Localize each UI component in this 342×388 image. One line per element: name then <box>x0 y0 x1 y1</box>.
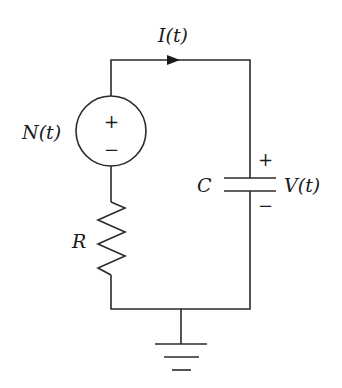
current-label: I(t) <box>157 24 188 46</box>
capacitor-label: C <box>197 174 212 196</box>
circuit-diagram: I(t) + − N(t) R + − C V(t) <box>0 0 342 388</box>
capacitor-minus-sign: − <box>258 195 273 216</box>
source-plus-sign: + <box>104 111 119 132</box>
source-label: N(t) <box>21 121 61 143</box>
bottom-wire <box>111 191 250 309</box>
resistor-zigzag <box>98 202 125 275</box>
capacitor-plus-sign: + <box>258 149 273 170</box>
current-arrow-icon <box>167 55 180 65</box>
source-minus-sign: − <box>104 139 119 160</box>
top-wire <box>111 60 250 178</box>
ground-icon <box>155 344 207 370</box>
voltage-label: V(t) <box>284 174 320 196</box>
resistor-label: R <box>71 230 86 252</box>
